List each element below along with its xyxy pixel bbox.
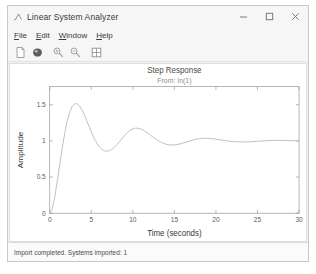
y-tick-label: 0.5	[37, 173, 46, 180]
x-tick-label: 25	[254, 216, 262, 223]
menu-item-help[interactable]: Help	[96, 31, 112, 40]
x-tick-label: 20	[212, 216, 220, 223]
menu-item-edit[interactable]: Edit	[36, 31, 50, 40]
menu-accel-file: F	[14, 31, 19, 40]
new-document-button[interactable]	[13, 45, 28, 60]
close-button[interactable]	[282, 6, 308, 27]
print-button[interactable]	[30, 45, 45, 60]
new-document-icon	[14, 46, 27, 59]
step-response-chart[interactable]: Step ResponseFrom: In(1)05101520253000.5…	[10, 64, 306, 241]
magnifier-plus-icon	[52, 46, 65, 59]
menu-accel-help: H	[96, 31, 102, 40]
zoom-in-button[interactable]	[51, 45, 66, 60]
chart-title: Step Response	[147, 66, 202, 75]
y-tick-label: 1.5	[37, 101, 46, 108]
window-title: Linear System Analyzer	[27, 12, 119, 22]
title-bar: Linear System Analyzer	[8, 6, 308, 27]
status-bar: Import completed. Systems imported: 1	[8, 242, 308, 261]
matlab-icon	[13, 12, 23, 22]
application-window: Linear System Analyzer FileEditWindowHel	[7, 5, 309, 262]
grid-layout-icon	[90, 46, 103, 59]
chart-series-line	[50, 104, 299, 213]
x-tick-label: 0	[48, 216, 52, 223]
x-axis-label: Time (seconds)	[147, 229, 202, 238]
maximize-button[interactable]	[256, 6, 282, 27]
x-tick-label: 10	[129, 216, 137, 223]
magnifier-minus-icon	[69, 46, 82, 59]
menu-accel-edit: E	[36, 31, 41, 40]
zoom-out-button[interactable]	[68, 45, 83, 60]
chart-subtitle: From: In(1)	[157, 76, 191, 84]
plot-panel[interactable]: Step ResponseFrom: In(1)05101520253000.5…	[9, 63, 307, 242]
tool-bar	[8, 43, 308, 62]
axes-frame	[50, 87, 299, 214]
x-tick-label: 15	[171, 216, 179, 223]
x-tick-label: 30	[295, 216, 303, 223]
minimize-button[interactable]	[230, 6, 256, 27]
menu-item-window[interactable]: Window	[59, 31, 87, 40]
x-tick-label: 5	[89, 216, 93, 223]
y-tick-label: 1	[42, 137, 46, 144]
print-icon	[31, 46, 44, 59]
y-axis-label: Amplitude	[16, 131, 25, 168]
window-controls	[230, 6, 308, 27]
menu-bar: FileEditWindowHelp	[8, 27, 308, 43]
grid-layout-button[interactable]	[89, 45, 104, 60]
menu-accel-window: W	[59, 31, 67, 40]
menu-item-file[interactable]: File	[14, 31, 27, 40]
y-tick-label: 0	[42, 209, 46, 216]
status-message: Import completed. Systems imported: 1	[14, 249, 127, 256]
